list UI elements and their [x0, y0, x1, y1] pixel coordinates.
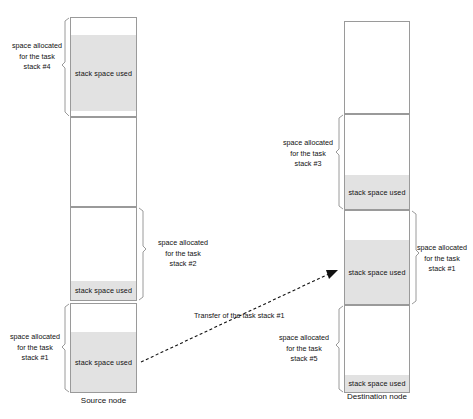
source-stack-2-allocation-line-3: stack #2 — [148, 259, 218, 270]
destination-stack-1-used-region: stack space used — [345, 240, 409, 304]
transfer-arrow-label-text: Transfer of the task stack #1 — [194, 311, 284, 320]
destination-stack-3-allocation-label: space allocated for the task stack #3 — [277, 138, 339, 170]
source-node-caption: Source node — [70, 396, 137, 405]
source-stack-1-allocation-line-3: stack #1 — [4, 353, 66, 364]
source-stack-4-allocation-line-3: stack #4 — [6, 62, 68, 73]
destination-stack-3-allocation-line-3: stack #3 — [277, 159, 339, 170]
destination-stack-3-used-region: stack space used — [345, 175, 409, 209]
destination-stack-1-allocation-line-3: stack #1 — [411, 264, 473, 275]
destination-stack-5-used-region: stack space used — [345, 375, 409, 392]
source-stack-2-allocation-line-1: space allocated — [148, 238, 218, 249]
source-stack-1-used-region: stack space used — [71, 332, 136, 392]
source-stack-2-used-label: stack space used — [75, 286, 132, 295]
source-stack-4-used-region: stack space used — [71, 35, 136, 111]
source-stack-4-allocation-line-2: for the task — [6, 52, 68, 63]
diagram-canvas: stack space used stack space used stack … — [0, 0, 473, 419]
source-stack-1-used-label: stack space used — [75, 358, 132, 367]
destination-stack-3-allocation-line-2: for the task — [277, 149, 339, 160]
destination-stack-1-allocation-line-1: space allocated — [411, 243, 473, 254]
destination-stack-5-allocation-line-1: space allocated — [273, 333, 335, 344]
source-stack-4-allocation-line-1: space allocated — [6, 41, 68, 52]
destination-stack-3-allocation-line-1: space allocated — [277, 138, 339, 149]
destination-stack-1-allocation-label: space allocated for the task stack #1 — [411, 243, 473, 275]
source-stack-4-lower-box — [70, 117, 137, 207]
source-stack-1-allocation-line-1: space allocated — [4, 332, 66, 343]
destination-stack-5-used-label: stack space used — [348, 379, 405, 388]
source-stack-4-allocation-label: space allocated for the task stack #4 — [6, 41, 68, 73]
destination-stack-5-allocation-label: space allocated for the task stack #5 — [273, 333, 335, 365]
destination-stack-5-brace — [336, 306, 343, 392]
transfer-arrow-label: Transfer of the task stack #1 — [194, 311, 284, 320]
source-node-caption-text: Source node — [81, 396, 126, 405]
destination-stack-5-allocation-line-3: stack #5 — [273, 354, 335, 365]
source-stack-1-allocation-label: space allocated for the task stack #1 — [4, 332, 66, 364]
source-stack-2-allocation-label: space allocated for the task stack #2 — [148, 238, 218, 270]
source-stack-4-used-label: stack space used — [75, 69, 132, 78]
source-stack-2-brace — [139, 208, 146, 300]
source-stack-1-allocation-line-2: for the task — [4, 343, 66, 354]
source-stack-2-used-region: stack space used — [71, 281, 136, 300]
destination-empty-top-box — [344, 21, 410, 114]
destination-stack-1-allocation-line-2: for the task — [411, 254, 473, 265]
destination-stack-1-used-label: stack space used — [348, 268, 405, 277]
destination-stack-5-allocation-line-2: for the task — [273, 344, 335, 355]
source-stack-2-allocation-line-2: for the task — [148, 249, 218, 260]
destination-node-caption-text: Destination node — [347, 392, 407, 401]
destination-node-caption: Destination node — [332, 392, 422, 401]
destination-stack-3-used-label: stack space used — [348, 188, 405, 197]
